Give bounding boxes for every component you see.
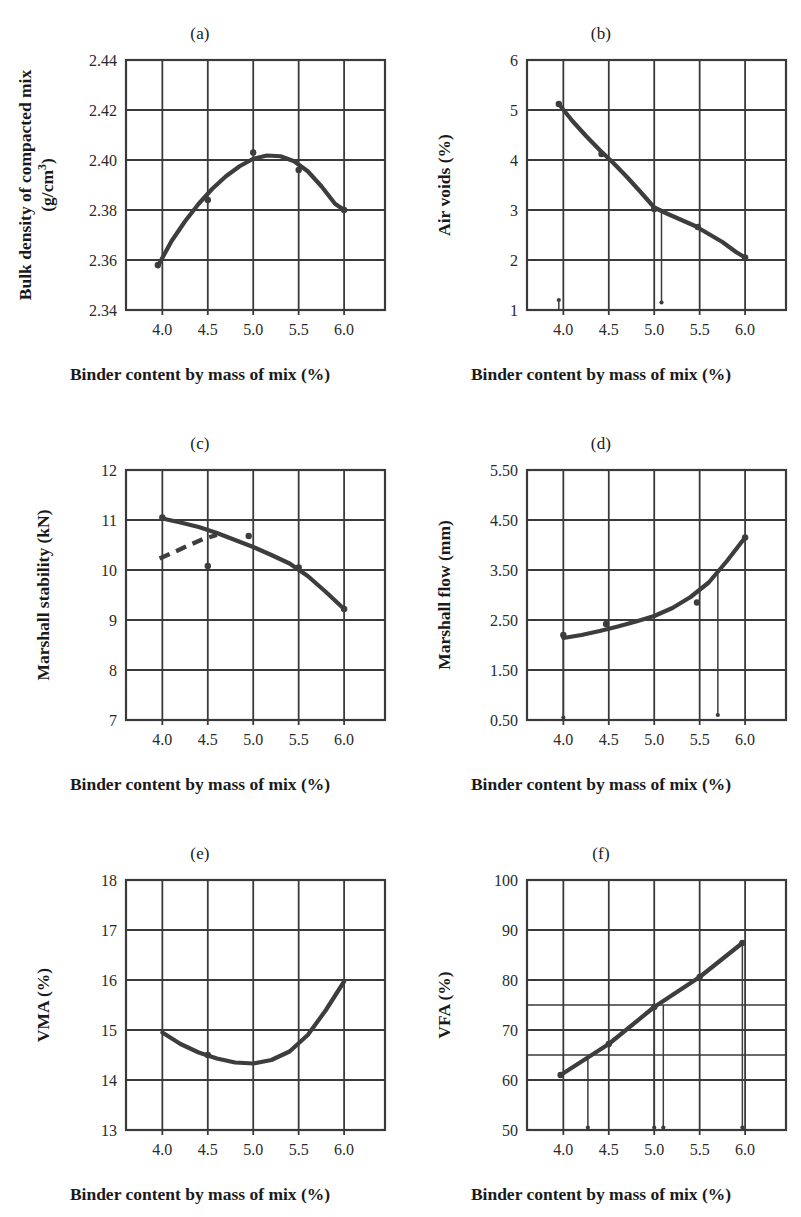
x-tick-label: 5.5: [289, 1141, 309, 1158]
dropline-f: [652, 1007, 656, 1130]
x-tick-label: 4.0: [152, 1141, 172, 1158]
data-point: [739, 940, 745, 946]
x-tick-label: 6.0: [334, 321, 354, 338]
data-point: [341, 606, 347, 612]
y-tick-label: 2.42: [89, 102, 117, 119]
x-axis-label-d: Binder content by mass of mix (%): [401, 774, 801, 795]
data-point: [205, 197, 211, 203]
x-axis-label-b: Binder content by mass of mix (%): [401, 364, 801, 385]
data-point: [742, 254, 748, 260]
y-tick-label: 15: [101, 1022, 117, 1039]
y-tick-label: 14: [101, 1072, 117, 1089]
data-point: [205, 1052, 211, 1058]
x-tick-label: 4.0: [152, 321, 172, 338]
y-tick-label: 0.50: [490, 712, 518, 729]
chart-panel-b: (b)Air voids (%)Binder content by mass o…: [401, 18, 801, 408]
y-tick-label: 16: [101, 972, 117, 989]
y-tick-label: 9: [109, 612, 117, 629]
x-tick-label: 5.0: [644, 321, 664, 338]
data-point: [696, 974, 702, 980]
gridlines-c: [126, 470, 385, 720]
dropline-f: [661, 1005, 665, 1130]
data-point: [651, 1004, 657, 1010]
y-tick-label: 2.34: [89, 302, 117, 319]
data-point: [742, 534, 748, 540]
plot-area-b: 1234564.04.55.05.56.0: [401, 18, 801, 358]
data-point: [606, 1041, 612, 1047]
x-tick-label: 6.0: [735, 731, 755, 748]
x-axis-label-c: Binder content by mass of mix (%): [0, 774, 400, 795]
data-point: [295, 564, 301, 570]
y-tick-label: 2.40: [89, 152, 117, 169]
plot-area-a: 2.342.362.382.402.422.444.04.55.05.56.0: [0, 18, 400, 358]
chart-panel-e: (e)VMA (%)Binder content by mass of mix …: [0, 838, 400, 1217]
y-tick-label: 90: [502, 922, 518, 939]
x-tick-label: 5.5: [289, 321, 309, 338]
chart-panel-d: (d)Marshall flow (mm)Binder content by m…: [401, 428, 801, 818]
x-tick-label: 6.0: [735, 321, 755, 338]
y-tick-label: 17: [101, 922, 117, 939]
x-tick-label: 4.0: [553, 321, 573, 338]
y-tick-label: 10: [101, 562, 117, 579]
dropline-b: [659, 210, 663, 305]
y-tick-label: 3: [510, 202, 518, 219]
data-point: [159, 514, 165, 520]
y-tick-label: 1: [510, 302, 518, 319]
data-point: [603, 621, 609, 627]
y-tick-label: 8: [109, 662, 117, 679]
gridlines-d: [527, 470, 786, 720]
chart-panel-c: (c)Marshall stability (kN)Binder content…: [0, 428, 400, 818]
x-tick-label: 5.0: [243, 731, 263, 748]
x-tick-label: 4.5: [198, 731, 218, 748]
plot-area-e: 1314151617184.04.55.05.56.0: [0, 838, 400, 1178]
gridlines-b: [527, 60, 786, 310]
y-tick-label: 2: [510, 252, 518, 269]
data-point: [651, 206, 657, 212]
x-tick-label: 5.5: [690, 321, 710, 338]
dropline-d: [561, 636, 565, 720]
y-tick-label: 80: [502, 972, 518, 989]
x-axis-label-f: Binder content by mass of mix (%): [401, 1184, 801, 1205]
x-tick-label: 5.5: [690, 731, 710, 748]
x-tick-label: 5.0: [243, 1141, 263, 1158]
dropline-f: [586, 1055, 590, 1130]
x-tick-label: 6.0: [735, 1141, 755, 1158]
x-tick-label: 5.5: [289, 731, 309, 748]
fit-curve-b: [559, 104, 745, 258]
y-tick-label: 1.50: [490, 662, 518, 679]
plot-area-d: 0.501.502.503.504.505.504.04.55.05.56.0: [401, 428, 801, 768]
data-point: [556, 101, 562, 107]
y-tick-label: 2.38: [89, 202, 117, 219]
x-tick-label: 4.0: [152, 731, 172, 748]
y-tick-label: 70: [502, 1022, 518, 1039]
x-tick-label: 4.5: [198, 1141, 218, 1158]
dropline-f: [740, 943, 744, 1130]
y-tick-label: 2.44: [89, 52, 117, 69]
y-tick-label: 60: [502, 1072, 518, 1089]
x-tick-label: 4.0: [553, 1141, 573, 1158]
data-point: [560, 632, 566, 638]
data-point: [695, 224, 701, 230]
dropline-d: [716, 570, 720, 717]
y-tick-label: 13: [101, 1122, 117, 1139]
x-tick-label: 6.0: [334, 1141, 354, 1158]
y-tick-label: 100: [494, 872, 518, 889]
y-tick-label: 5: [510, 102, 518, 119]
y-tick-label: 2.50: [490, 612, 518, 629]
data-point: [205, 563, 211, 569]
x-tick-label: 4.5: [198, 321, 218, 338]
y-tick-label: 12: [101, 462, 117, 479]
x-tick-label: 4.0: [553, 731, 573, 748]
y-tick-label: 7: [109, 712, 117, 729]
y-tick-label: 50: [502, 1122, 518, 1139]
x-tick-label: 5.0: [644, 1141, 664, 1158]
x-tick-label: 4.5: [599, 321, 619, 338]
gridlines-e: [126, 880, 385, 1130]
gridlines-a: [126, 60, 385, 310]
data-point: [245, 533, 251, 539]
x-tick-label: 5.5: [690, 1141, 710, 1158]
y-tick-label: 5.50: [490, 462, 518, 479]
x-tick-label: 6.0: [334, 731, 354, 748]
dropline-b: [557, 298, 561, 310]
chart-panel-a: (a)Bulk density of compacted mix(g/cm3)B…: [0, 18, 400, 408]
